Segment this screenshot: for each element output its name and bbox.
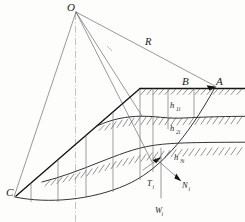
label-force-W: W i — [155, 205, 164, 217]
figure-canvas: O R A B C h 1i h 2i h 3i T i N — [0, 0, 245, 222]
ray-O-to-C — [14, 12, 76, 197]
label-h1-sub: 1i — [176, 106, 181, 112]
label-layer3-height: h 3i — [174, 152, 185, 164]
label-force-T: T i — [147, 178, 155, 190]
radius-line-R — [76, 12, 215, 86]
label-T-sub: i — [153, 184, 155, 190]
label-h1-base: h — [170, 100, 174, 110]
construction-tick — [107, 46, 113, 52]
ground-surface-hatching — [141, 89, 242, 95]
slope-face-line-CB — [16, 89, 140, 197]
label-radius-R: R — [144, 36, 152, 47]
label-h3-base: h — [174, 152, 178, 162]
label-layer1-height: h 1i — [170, 100, 181, 112]
label-N-sub: i — [189, 186, 191, 192]
label-h2-base: h — [170, 123, 174, 133]
label-h2-sub: 2i — [176, 129, 181, 135]
label-h3-sub: 3i — [179, 158, 185, 164]
label-force-N: N i — [181, 180, 191, 192]
label-point-C: C — [6, 186, 14, 198]
label-W-sub: i — [162, 211, 164, 217]
ray-O-to-slice-base — [76, 12, 152, 162]
ray-O-to-B — [76, 12, 142, 116]
label-point-B: B — [182, 75, 189, 87]
stratum-2-hatching — [45, 148, 242, 187]
label-layer2-height: h 2i — [170, 123, 181, 135]
slope-stability-figure: O R A B C h 1i h 2i h 3i T i N — [0, 0, 245, 222]
force-vector-N-arrowhead — [174, 174, 181, 182]
label-point-A: A — [215, 75, 223, 87]
label-center-O: O — [67, 1, 75, 13]
